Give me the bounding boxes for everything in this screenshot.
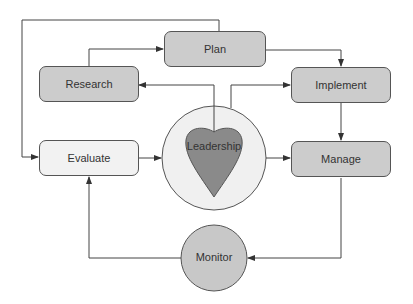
node-implement: Implement (291, 67, 391, 103)
node-implement-label: Implement (315, 79, 366, 91)
node-manage: Manage (291, 141, 391, 177)
leadership-cycle-diagram: Plan Research Implement Evaluate Manage … (0, 0, 413, 304)
node-evaluate: Evaluate (39, 140, 139, 176)
node-evaluate-label: Evaluate (68, 152, 111, 164)
node-manage-label: Manage (321, 153, 361, 165)
node-monitor-label: Monitor (174, 251, 254, 263)
node-research-label: Research (65, 78, 112, 90)
node-plan: Plan (164, 31, 266, 67)
node-research: Research (39, 66, 139, 102)
node-leadership-label: Leadership (174, 140, 254, 152)
node-plan-label: Plan (204, 43, 226, 55)
